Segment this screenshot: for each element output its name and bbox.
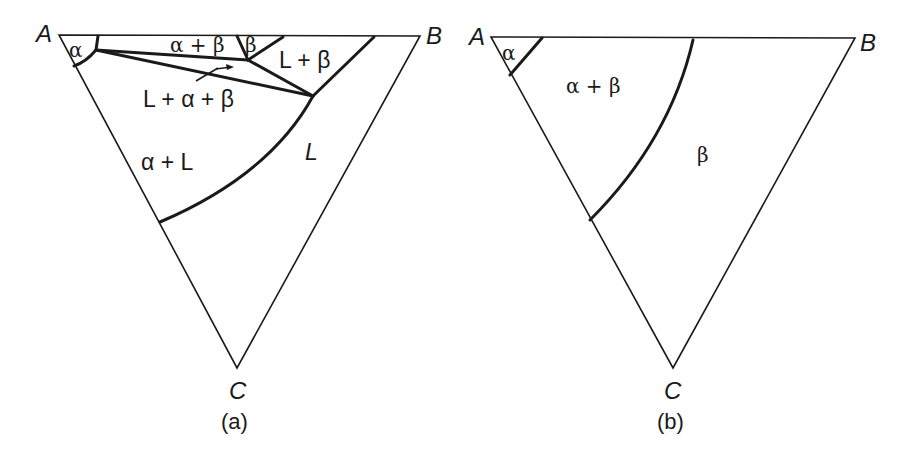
ternary-phase-diagrams: A B C α α + β β L + β L + α + β α + L L … (0, 0, 902, 462)
solvus-boundary-b (590, 40, 693, 220)
region-label-alpha-beta: α + β (170, 33, 225, 57)
panel-a: A B C α α + β β L + β L + α + β α + L L … (34, 20, 442, 434)
panel-caption-a: (a) (221, 409, 248, 434)
panel-caption-b: (b) (657, 409, 684, 434)
vertex-label-a: A (34, 20, 52, 47)
region-label-l-beta: L + β (279, 47, 330, 73)
ternary-triangle-a (59, 35, 420, 368)
region-label-alpha-beta: α + β (566, 74, 621, 98)
vertex-label-a: A (467, 23, 485, 50)
vertex-label-b: B (426, 22, 442, 49)
vertex-label-c: C (229, 377, 247, 404)
vertex-label-c: C (664, 377, 682, 404)
panel-b: A B C α α + β β (b) (467, 23, 876, 434)
region-label-alpha-l: α + L (141, 149, 194, 175)
region-label-l-alpha-beta: L + α + β (143, 86, 234, 112)
region-label-alpha: α (502, 41, 516, 65)
vertex-label-b: B (860, 29, 876, 56)
arrow-head-icon (226, 64, 234, 70)
region-label-beta: β (697, 143, 709, 167)
region-label-l: L (305, 139, 318, 165)
ternary-triangle-b (491, 37, 855, 368)
region-label-beta: β (245, 33, 257, 57)
region-label-alpha: α (69, 38, 83, 62)
